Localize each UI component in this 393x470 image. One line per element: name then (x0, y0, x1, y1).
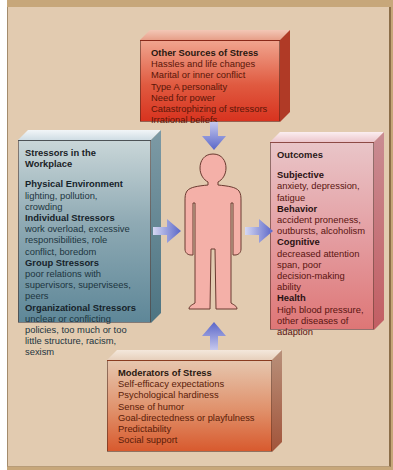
outcomes-group-line: fatigue (277, 192, 367, 203)
outcomes-group-heading: Behavior (277, 203, 367, 214)
outcomes-group-heading: Health (277, 292, 367, 303)
arrow-up-icon (202, 322, 226, 350)
box-top-face (107, 350, 282, 360)
arrow-right-icon (245, 219, 273, 243)
workplace-group-heading: Group Stressors (25, 257, 144, 268)
box-top-face (18, 130, 161, 140)
workplace-group-heading: Individual Stressors (25, 212, 144, 223)
other-sources-item: Hassles and life changes (151, 58, 273, 69)
outcomes-title: Outcomes (277, 149, 367, 160)
workplace-group-line: crowding (25, 201, 144, 212)
workplace-group-line: supervisors, supervisees, (25, 279, 144, 290)
other-sources-item: Need for power (151, 92, 273, 103)
outcomes-group-line: accident proneness, (277, 214, 367, 225)
outcomes-group-line: anxiety, depression, (277, 180, 367, 191)
workplace-stressors-box: Stressors in the Workplace Physical Envi… (18, 130, 161, 323)
moderators-item: Predictability (118, 423, 265, 434)
outcomes-group-line: decision-making ability (277, 270, 367, 292)
moderators-title: Moderators of Stress (118, 367, 265, 378)
moderators-item: Self-efficacy expectations (118, 378, 265, 389)
outcomes-group-line: outbursts, alcoholism (277, 225, 367, 236)
moderators-content: Moderators of Stress Self-efficacy expec… (107, 360, 272, 452)
moderators-item: Sense of humor (118, 401, 265, 412)
workplace-group-line: poor relations with (25, 268, 144, 279)
workplace-group-line: conflict, boredom (25, 246, 144, 257)
workplace-group-heading: Organizational Stressors (25, 302, 144, 313)
workplace-group-line: lighting, pollution, (25, 190, 144, 201)
other-sources-item: Type A personality (151, 81, 273, 92)
box-side-face (272, 350, 282, 452)
workplace-group-line: little structure, racism, (25, 335, 144, 346)
other-sources-box: Other Sources of Stress Hassles and life… (140, 30, 290, 122)
workplace-group-line: unclear or conflicting (25, 313, 144, 324)
other-sources-title: Other Sources of Stress (151, 47, 273, 58)
workplace-group-line: responsibilities, role (25, 234, 144, 245)
workplace-group-line: policies, too much or too (25, 324, 144, 335)
human-figure-icon (184, 153, 242, 311)
box-side-face (374, 132, 384, 330)
box-top-face (270, 132, 384, 142)
outcomes-group-line: decreased attention (277, 248, 367, 259)
moderators-box: Moderators of Stress Self-efficacy expec… (107, 350, 282, 452)
moderators-item: Social support (118, 434, 265, 445)
arrow-down-icon (202, 122, 226, 150)
moderators-item: Goal-directedness or playfulness (118, 412, 265, 423)
outcomes-group-line: other diseases of (277, 315, 367, 326)
workplace-title: Stressors in the Workplace (25, 147, 144, 169)
outcomes-content: Outcomes Subjective anxiety, depression,… (270, 142, 374, 330)
workplace-group-line: work overload, excessive (25, 223, 144, 234)
moderators-item: Psychological hardiness (118, 389, 265, 400)
outcomes-group-heading: Subjective (277, 169, 367, 180)
workplace-stressors-content: Stressors in the Workplace Physical Envi… (18, 140, 151, 323)
other-sources-item: Catastrophizing of stressors (151, 103, 273, 114)
box-side-face (280, 30, 290, 122)
outcomes-box: Outcomes Subjective anxiety, depression,… (270, 132, 384, 330)
box-top-face (140, 30, 290, 40)
outcomes-group-line: span, poor (277, 259, 367, 270)
outcomes-group-line: adaption (277, 326, 367, 337)
workplace-group-heading: Physical Environment (25, 178, 144, 189)
outcomes-group-heading: Cognitive (277, 236, 367, 247)
other-sources-item: Marital or inner conflict (151, 69, 273, 80)
workplace-group-line: peers (25, 290, 144, 301)
other-sources-content: Other Sources of Stress Hassles and life… (140, 40, 280, 122)
outcomes-group-line: High blood pressure, (277, 304, 367, 315)
arrow-right-icon (153, 219, 181, 243)
